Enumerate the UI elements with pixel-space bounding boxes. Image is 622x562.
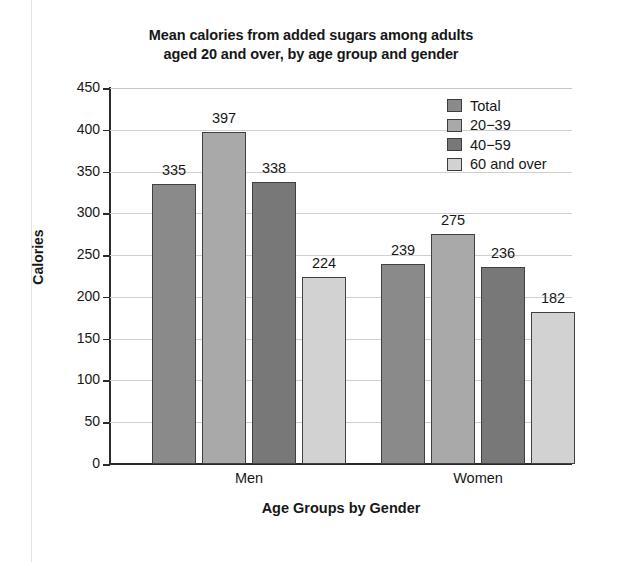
y-axis-tick <box>103 380 110 382</box>
y-axis-tick-label: 250 <box>54 246 100 262</box>
y-axis-tick-label: 150 <box>54 330 100 346</box>
legend-label: 60 and over <box>470 156 547 172</box>
y-axis-tick-label: 100 <box>54 371 100 387</box>
bar <box>531 312 575 464</box>
y-axis-tick-label: 300 <box>54 204 100 220</box>
legend-label: 40−59 <box>470 137 511 153</box>
y-axis-tick <box>103 213 110 215</box>
bar-value-label: 338 <box>242 160 306 176</box>
y-axis-tick-label: 0 <box>54 455 100 471</box>
y-axis-tick <box>103 172 110 174</box>
legend-swatch <box>447 158 462 171</box>
y-axis-tick-label: 200 <box>54 288 100 304</box>
y-axis-tick-label: 50 <box>54 413 100 429</box>
legend-label: Total <box>470 98 501 114</box>
legend-item: Total <box>447 96 547 116</box>
legend-item: 20−39 <box>447 116 547 136</box>
y-axis-tick-label: 400 <box>54 121 100 137</box>
gridline <box>110 88 572 89</box>
y-axis-tick <box>103 422 110 424</box>
chart-title-line-2: aged 20 and over, by age group and gende… <box>86 45 536 64</box>
legend-swatch <box>447 138 462 151</box>
chart-page: Mean calories from added sugars among ad… <box>0 0 622 562</box>
bar <box>481 267 525 464</box>
legend-swatch <box>447 119 462 132</box>
legend-swatch <box>447 99 462 112</box>
x-axis-title: Age Groups by Gender <box>110 500 572 516</box>
legend-label: 20−39 <box>470 117 511 133</box>
y-axis-title: Calories <box>30 197 46 317</box>
legend-item: 60 and over <box>447 155 547 175</box>
bar <box>202 132 246 464</box>
bar <box>252 182 296 464</box>
y-axis-tick <box>103 255 110 257</box>
bar <box>381 264 425 464</box>
y-axis-tick-label: 350 <box>54 163 100 179</box>
chart-title: Mean calories from added sugars among ad… <box>86 26 536 64</box>
y-axis-tick <box>103 130 110 132</box>
bar-value-label: 275 <box>421 212 485 228</box>
bar-value-label: 239 <box>371 242 435 258</box>
chart-legend: Total20−3940−5960 and over <box>447 96 547 174</box>
y-axis-tick <box>103 88 110 90</box>
y-axis-tick <box>103 339 110 341</box>
bar-value-label: 335 <box>142 162 206 178</box>
bar-value-label: 224 <box>292 255 356 271</box>
y-axis-tick <box>103 464 110 466</box>
bar-value-label: 397 <box>192 110 256 126</box>
y-axis-tick <box>103 297 110 299</box>
bar <box>302 277 346 464</box>
bar <box>431 234 475 464</box>
bar <box>152 184 196 464</box>
bar-value-label: 182 <box>521 290 585 306</box>
x-axis-group-label: Men <box>189 470 309 486</box>
y-axis-tick-label: 450 <box>54 79 100 95</box>
chart-title-line-1: Mean calories from added sugars among ad… <box>86 26 536 45</box>
legend-item: 40−59 <box>447 135 547 155</box>
x-axis-group-label: Women <box>418 470 538 486</box>
bar-value-label: 236 <box>471 245 535 261</box>
